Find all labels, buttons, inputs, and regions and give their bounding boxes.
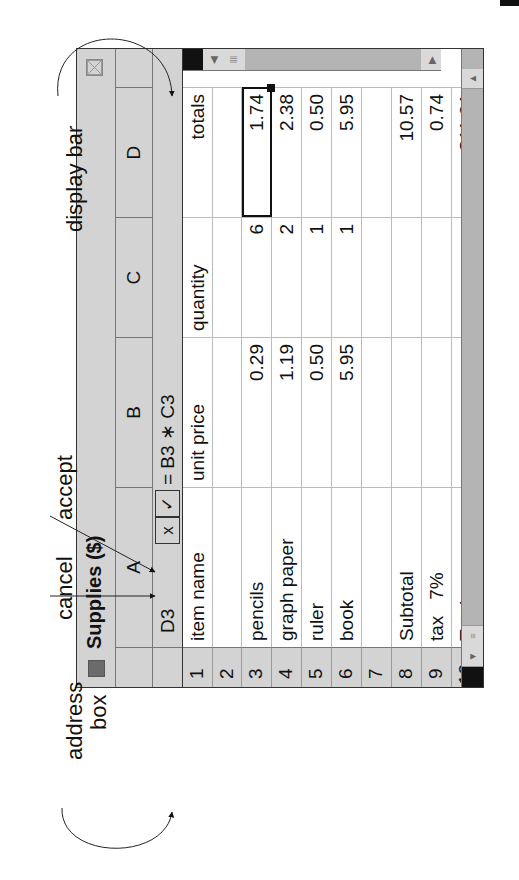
cell-d2[interactable]	[213, 87, 242, 217]
cell-c7[interactable]	[362, 217, 392, 337]
cell-a3[interactable]: pencils	[242, 487, 272, 647]
annotation-box: box	[88, 695, 110, 730]
cell-c8[interactable]	[392, 217, 422, 337]
cell-a8[interactable]: Subtotal	[392, 487, 422, 647]
address-box[interactable]: D3	[153, 544, 182, 647]
formula-bar: D3 x ✓ = B3 ∗ C3	[153, 49, 183, 687]
accept-button[interactable]: ✓	[155, 490, 180, 517]
row-header-3[interactable]: 3	[242, 647, 272, 687]
cell-a1[interactable]: item name	[183, 487, 213, 647]
cell-d7[interactable]	[362, 87, 392, 217]
scroll-left-arrow-icon[interactable]: ◀	[203, 49, 223, 70]
row-header-2[interactable]: 2	[213, 647, 242, 687]
row-header-7[interactable]: 7	[362, 647, 392, 687]
column-header-row: A B C D	[116, 49, 153, 687]
cell-c4[interactable]: 2	[272, 217, 302, 337]
cell-d9[interactable]: 0.74	[422, 87, 452, 217]
annotation-cancel: cancel	[54, 556, 76, 620]
display-bar[interactable]: = B3 ∗ C3	[153, 395, 183, 485]
cell-b7[interactable]	[362, 337, 392, 487]
column-header-c[interactable]: C	[116, 217, 152, 337]
cell-a2[interactable]	[213, 487, 242, 647]
cell-b9[interactable]	[422, 337, 452, 487]
cell-c6[interactable]: 1	[332, 217, 362, 337]
row-header-6[interactable]: 6	[332, 647, 362, 687]
row-header-5[interactable]: 5	[302, 647, 332, 687]
cell-c2[interactable]	[213, 217, 242, 337]
cell-d5[interactable]: 0.50	[302, 87, 332, 217]
scrollbar-corner-block	[462, 667, 483, 687]
cell-a9[interactable]: tax 7%	[422, 487, 452, 647]
annotation-address: address	[64, 682, 86, 760]
cell-c3[interactable]: 6	[242, 217, 272, 337]
vertical-scroll-thumb[interactable]: ‖‖	[223, 49, 245, 70]
cell-b6[interactable]: 5.95	[332, 337, 362, 487]
cell-b2[interactable]	[213, 337, 242, 487]
spreadsheet-window: Supplies ($) A B C D D3 x ✓ = B3 ∗ C3 1 …	[76, 48, 484, 688]
annotation-display-bar: display bar	[64, 126, 86, 232]
horizontal-scroll-thumb[interactable]: ≡	[462, 625, 483, 647]
cell-d3-selected[interactable]: 1.74	[242, 87, 272, 217]
annotation-accept: accept	[54, 455, 76, 520]
cell-b1[interactable]: unit price	[183, 337, 213, 487]
window-square-icon	[88, 660, 105, 677]
cell-b8[interactable]	[392, 337, 422, 487]
cell-d8[interactable]: 10.57	[392, 87, 422, 217]
cell-a5[interactable]: ruler	[302, 487, 332, 647]
cell-d4[interactable]: 2.38	[272, 87, 302, 217]
row-header-4[interactable]: 4	[272, 647, 302, 687]
cell-d3-value: 1.74	[246, 94, 267, 131]
row-header-9[interactable]: 9	[422, 647, 452, 687]
close-box-icon[interactable]	[86, 59, 103, 76]
page-corner-mark	[500, 0, 519, 6]
cell-c1[interactable]: quantity	[183, 217, 213, 337]
cell-b3[interactable]: 0.29	[242, 337, 272, 487]
scroll-up-arrow-icon[interactable]: ▲	[462, 69, 483, 89]
vertical-scrollbar[interactable]: ◀ ‖‖ ▶	[183, 49, 441, 71]
cell-b4[interactable]: 1.19	[272, 337, 302, 487]
cell-d6[interactable]: 5.95	[332, 87, 362, 217]
row-header-8[interactable]: 8	[392, 647, 422, 687]
cell-a4[interactable]: graph paper	[272, 487, 302, 647]
scroll-right-arrow-icon[interactable]: ▶	[421, 49, 441, 70]
scroll-down-arrow-icon[interactable]: ▼	[462, 647, 483, 667]
cell-c9[interactable]	[422, 217, 452, 337]
column-header-b[interactable]: B	[116, 337, 152, 487]
scrollbar-top-block	[183, 49, 203, 70]
cell-d1[interactable]: totals	[183, 87, 213, 217]
formula-corner	[153, 647, 182, 687]
cancel-button[interactable]: x	[155, 517, 180, 544]
cell-c5[interactable]: 1	[302, 217, 332, 337]
window-title: Supplies ($)	[83, 536, 106, 649]
cell-a7[interactable]	[362, 487, 392, 647]
cell-grid: 1 item name unit price quantity totals 2…	[183, 49, 463, 687]
header-corner	[116, 647, 152, 687]
column-header-d[interactable]: D	[116, 87, 152, 217]
column-header-a[interactable]: A	[116, 487, 152, 647]
spreadsheet-window-rotated: Supplies ($) A B C D D3 x ✓ = B3 ∗ C3 1 …	[76, 48, 484, 688]
cell-a6[interactable]: book	[332, 487, 362, 647]
horizontal-scrollbar[interactable]: ▼ ≡ ▲	[461, 49, 483, 687]
cell-b5[interactable]: 0.50	[302, 337, 332, 487]
fill-handle[interactable]	[267, 84, 275, 92]
row-header-1[interactable]: 1	[183, 647, 213, 687]
